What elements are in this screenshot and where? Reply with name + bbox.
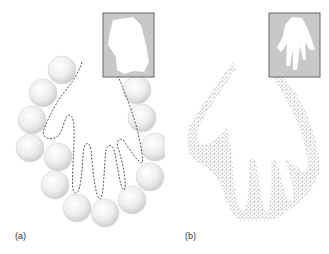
inset-coarse-silhouette [103,13,154,77]
panel-a: (a) [0,0,165,254]
particle-hand-diagram [165,0,329,254]
panel-label-b: (b) [185,231,196,241]
spheres [16,56,165,227]
inset-refined-silhouette [269,13,320,77]
panel-label-a: (a) [15,231,26,241]
sphere-chain-diagram [0,0,165,254]
panel-b: (b) [165,0,329,254]
